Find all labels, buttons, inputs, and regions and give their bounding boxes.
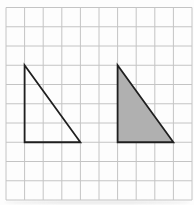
grid-figure xyxy=(0,0,194,205)
worksheet-figure xyxy=(0,0,194,205)
figure-background xyxy=(0,0,194,205)
